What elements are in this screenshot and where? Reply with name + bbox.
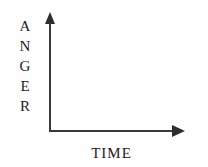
y-axis-label-letter: R (20, 96, 30, 116)
y-axis-label-letter: A (20, 16, 31, 36)
x-axis-line (49, 130, 174, 132)
x-axis-label: TIME (49, 144, 174, 162)
y-axis-label: A N G E R (12, 16, 38, 116)
y-axis-label-letter: N (20, 36, 31, 56)
plot-area (51, 22, 174, 130)
chart-container: A N G E R TIME (0, 0, 208, 167)
y-axis-label-letter: G (20, 56, 31, 76)
y-axis-label-letter: E (20, 76, 29, 96)
